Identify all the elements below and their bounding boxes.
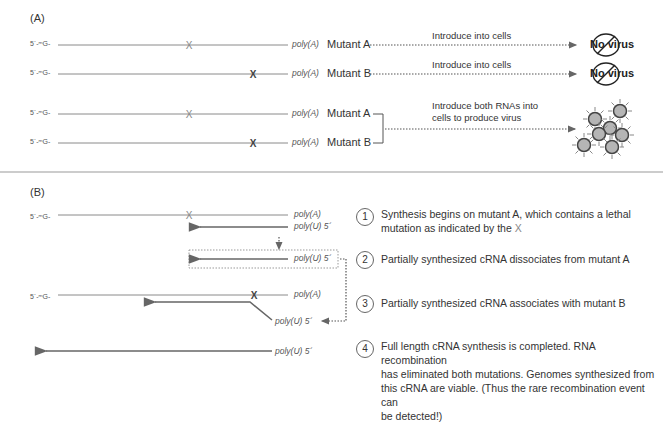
step-4-line1: Full length cRNA synthesis is completed.…: [381, 339, 663, 367]
svg-text:X: X: [186, 210, 193, 221]
step-1-badge: 1: [356, 208, 374, 226]
step-1-text: Synthesis begins on mutant A, which cont…: [381, 207, 631, 235]
step-1-line2: mutation as indicated by the X: [381, 221, 631, 235]
svg-text:X: X: [251, 290, 258, 301]
step-3-text: Partially synthesized cRNA associates wi…: [381, 296, 626, 310]
combined-note-line2: cells to produce virus: [432, 112, 521, 123]
introduce-note: Introduce into cells: [432, 59, 511, 70]
cap-label: 5´-ᵐG-: [30, 40, 50, 47]
poly-u-label: poly(U) 5´: [294, 221, 331, 231]
mutant-a-label: Mutant A: [327, 38, 370, 50]
panel-b-label: (B): [30, 186, 45, 198]
cap-label: 5´-ᵐG-: [30, 213, 50, 220]
step-4-badge: 4: [356, 340, 374, 358]
poly-u-label: poly(U) 5´: [275, 316, 312, 326]
panel-b-graphics: X X: [46, 210, 346, 351]
virus-cluster-icon: [572, 99, 634, 159]
step-1-line2-text: mutation as indicated by the: [381, 222, 515, 234]
mutation-x-icon: X: [515, 222, 522, 234]
step-2-badge: 2: [356, 251, 374, 269]
introduce-note: Introduce into cells: [432, 30, 511, 41]
svg-text:X: X: [186, 109, 193, 120]
poly-a-label: poly(A): [294, 289, 321, 299]
cap-label: 5´-ᵐG-: [30, 69, 50, 76]
poly-a-label: poly(A): [292, 68, 319, 78]
step-4-line4: be detected!): [381, 409, 663, 423]
step-1-line1: Synthesis begins on mutant A, which cont…: [381, 207, 631, 221]
step-4-line3: this cRNA are viable. (Thus the rare rec…: [381, 381, 663, 409]
step-3-badge: 3: [356, 295, 374, 313]
poly-a-label: poly(A): [292, 137, 319, 147]
combined-note-line1: Introduce both RNAs into: [432, 100, 538, 111]
step-4-line2: has eliminated both mutations. Genomes s…: [381, 367, 663, 381]
mutant-a-label: Mutant A: [327, 107, 370, 119]
svg-text:X: X: [250, 138, 257, 149]
step-4-text: Full length cRNA synthesis is completed.…: [381, 339, 663, 423]
panel-a-rna-lines: [58, 45, 288, 143]
no-virus-label: No virus: [590, 38, 634, 50]
poly-a-label: poly(A): [292, 39, 319, 49]
mutant-b-label: Mutant B: [327, 136, 371, 148]
poly-a-label: poly(A): [292, 108, 319, 118]
poly-u-label: poly(U) 5´: [275, 346, 312, 356]
mutant-b-label: Mutant B: [327, 67, 371, 79]
poly-u-label: poly(U) 5´: [294, 253, 331, 263]
cap-label: 5´-ᵐG-: [30, 293, 50, 300]
no-virus-label: No virus: [590, 67, 634, 79]
cap-label: 5´-ᵐG-: [30, 109, 50, 116]
step-2-text: Partially synthesized cRNA dissociates f…: [381, 252, 630, 266]
cap-label: 5´-ᵐG-: [30, 138, 50, 145]
poly-a-label: poly(A): [294, 209, 321, 219]
mutation-x-icons: X X X X: [186, 40, 257, 149]
svg-text:X: X: [186, 40, 193, 51]
svg-text:X: X: [250, 69, 257, 80]
panel-a-label: (A): [30, 12, 45, 24]
